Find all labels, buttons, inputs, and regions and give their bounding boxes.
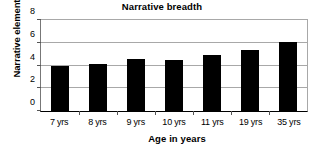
- y-axis-tick-label: 0: [30, 98, 35, 107]
- x-axis-tick-label: 11 yrs: [193, 117, 231, 128]
- plot-area: 02468: [40, 19, 308, 112]
- x-axis-tick: [269, 111, 270, 115]
- chart-title: Narrative breadth: [0, 1, 324, 13]
- bar-slot: [155, 20, 193, 111]
- x-axis-tick-labels: 7 yrs8 yrs9 yrs10 yrs11 yrs19 yrs35 yrs: [40, 117, 308, 128]
- bar-slot: [269, 20, 307, 111]
- x-axis-tick-label: 8 yrs: [78, 117, 116, 128]
- x-axis-tick: [117, 111, 118, 115]
- x-axis-title: Age in years: [30, 133, 324, 144]
- bar: [127, 59, 145, 111]
- bar-slot: [41, 20, 79, 111]
- bar: [241, 50, 259, 111]
- bar: [279, 42, 297, 111]
- bar: [89, 64, 107, 111]
- bar-slot: [231, 20, 269, 111]
- y-axis-tick-label: 4: [30, 52, 35, 61]
- bar-chart-figure: Narrative breadth Narrative elements 024…: [0, 0, 324, 151]
- y-axis-tick-label: 8: [30, 7, 35, 16]
- x-axis-tick-label: 35 yrs: [270, 117, 308, 128]
- bar: [165, 60, 183, 111]
- x-axis-tick: [79, 111, 80, 115]
- y-axis-tick-label: 6: [30, 29, 35, 38]
- x-axis-tick-label: 9 yrs: [117, 117, 155, 128]
- x-axis-tick-label: 10 yrs: [155, 117, 193, 128]
- x-axis-tick: [231, 111, 232, 115]
- x-axis-tick-label: 7 yrs: [40, 117, 78, 128]
- y-axis-title: Narrative elements: [10, 0, 24, 86]
- bar-slot: [79, 20, 117, 111]
- x-axis-tick-label: 19 yrs: [231, 117, 269, 128]
- bar-series: [41, 20, 307, 111]
- bar-slot: [193, 20, 231, 111]
- bar-slot: [117, 20, 155, 111]
- y-axis-tick-label: 2: [30, 75, 35, 84]
- bar: [51, 66, 69, 112]
- bar: [203, 55, 221, 111]
- x-axis-tick: [155, 111, 156, 115]
- x-axis-tick: [193, 111, 194, 115]
